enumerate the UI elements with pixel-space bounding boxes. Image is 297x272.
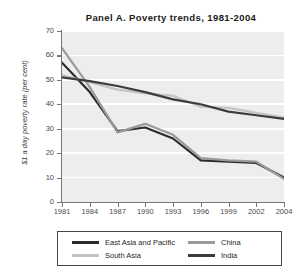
chart-legend: East Asia and PacificChinaSouth AsiaIndi… <box>57 231 282 266</box>
x-tick-mark <box>145 203 146 207</box>
x-tick-mark <box>90 203 91 207</box>
y-tick-label: 0 <box>32 197 54 206</box>
legend-item[interactable]: India <box>188 251 237 260</box>
chart-title: Panel A. Poverty trends, 1981-2004 <box>48 12 294 23</box>
y-tick-label: 70 <box>32 26 54 35</box>
x-tick-mark <box>284 203 285 207</box>
y-tick-label: 10 <box>32 173 54 182</box>
legend-label: East Asia and Pacific <box>105 238 175 247</box>
x-axis-line <box>61 202 285 203</box>
x-tick-mark <box>229 203 230 207</box>
legend-item[interactable]: South Asia <box>72 251 141 260</box>
legend-color-swatch <box>72 241 99 244</box>
legend-item[interactable]: China <box>188 238 241 247</box>
series-lines <box>62 31 284 202</box>
legend-item[interactable]: East Asia and Pacific <box>72 238 175 247</box>
legend-label: South Asia <box>105 251 141 260</box>
y-axis-line <box>61 30 62 203</box>
y-axis-label: $1 a day poverty rate (per cent) <box>20 33 29 193</box>
x-tick-mark <box>173 203 174 207</box>
legend-label: India <box>221 251 237 260</box>
x-tick-label: 2004 <box>267 207 297 216</box>
plot-area <box>62 31 284 202</box>
x-tick-mark <box>201 203 202 207</box>
x-tick-mark <box>62 203 63 207</box>
legend-label: China <box>221 238 241 247</box>
poverty-trends-figure: Panel A. Poverty trends, 1981-2004 $1 a … <box>0 0 297 272</box>
y-tick-label: 20 <box>32 148 54 157</box>
x-tick-mark <box>256 203 257 207</box>
y-tick-label: 30 <box>32 124 54 133</box>
y-tick-label: 60 <box>32 50 54 59</box>
x-tick-mark <box>118 203 119 207</box>
y-tick-label: 40 <box>32 99 54 108</box>
y-tick-label: 50 <box>32 75 54 84</box>
legend-color-swatch <box>188 241 215 244</box>
legend-color-swatch <box>72 254 99 257</box>
legend-color-swatch <box>188 254 215 257</box>
